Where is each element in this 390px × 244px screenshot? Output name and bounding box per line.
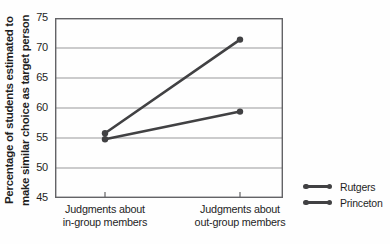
legend-item-rutgers: Rutgers bbox=[303, 180, 383, 193]
legend-segment-icon bbox=[308, 185, 328, 188]
y-tick-label: 70 bbox=[0, 41, 51, 53]
legend-dot-icon bbox=[327, 184, 333, 190]
y-tick-label: 50 bbox=[0, 161, 51, 173]
x-category-label-line: out-group members bbox=[175, 216, 305, 229]
legend-segment-icon bbox=[308, 201, 328, 204]
series-line-princeton bbox=[105, 112, 240, 140]
y-axis-tick-labels: 45505560657075 bbox=[0, 0, 51, 244]
legend-line-icon bbox=[303, 200, 332, 206]
legend-label: Princeton bbox=[340, 197, 383, 209]
series-line-rutgers bbox=[105, 40, 240, 134]
data-point-princeton-0 bbox=[102, 136, 108, 142]
legend-item-princeton: Princeton bbox=[303, 196, 383, 209]
data-point-rutgers-0 bbox=[102, 130, 108, 136]
x-category-label-line: Judgments about bbox=[175, 203, 305, 216]
y-tick-label: 75 bbox=[0, 11, 51, 23]
plot-area bbox=[55, 18, 283, 198]
legend-line-icon bbox=[303, 184, 332, 190]
y-tick-label: 55 bbox=[0, 131, 51, 143]
x-category-label-line: in-group members bbox=[40, 216, 170, 229]
x-category-label-line: Judgments about bbox=[40, 203, 170, 216]
y-tick-label: 65 bbox=[0, 71, 51, 83]
legend-dot-icon bbox=[327, 200, 333, 206]
legend-label: Rutgers bbox=[340, 181, 375, 193]
x-category-label: Judgments aboutin-group members bbox=[40, 203, 170, 230]
figure: Percentage of students estimated to make… bbox=[0, 0, 390, 244]
data-point-rutgers-1 bbox=[237, 36, 243, 42]
chart-canvas bbox=[55, 18, 283, 198]
y-tick-label: 45 bbox=[0, 191, 51, 203]
x-category-label: Judgments aboutout-group members bbox=[175, 203, 305, 230]
y-tick-label: 60 bbox=[0, 101, 51, 113]
legend: RutgersPrinceton bbox=[303, 180, 383, 209]
data-point-princeton-1 bbox=[237, 108, 243, 114]
